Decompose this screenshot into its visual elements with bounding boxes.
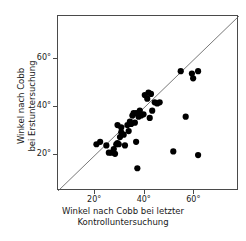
data-point bbox=[126, 128, 132, 134]
y-axis-tick bbox=[53, 106, 57, 107]
identity-line bbox=[58, 16, 239, 191]
x-axis-title: Winkel nach Cobb bei letzter Kontrollunt… bbox=[0, 206, 246, 228]
x-axis-title-line1: Winkel nach Cobb bei letzter bbox=[62, 206, 184, 216]
data-point bbox=[195, 152, 201, 158]
data-point bbox=[134, 165, 140, 171]
data-point bbox=[183, 114, 189, 120]
y-axis-title: Winkel nach Cobb bei Erstuntersuchung bbox=[16, 31, 38, 181]
data-point bbox=[149, 108, 155, 114]
x-axis-tick-label: 40° bbox=[137, 196, 151, 204]
data-point-layer bbox=[93, 68, 201, 171]
y-axis-tick bbox=[53, 154, 57, 155]
x-axis-tick bbox=[193, 190, 194, 194]
plot-area bbox=[57, 15, 238, 190]
x-axis-title-line2: Kontrolluntersuchung bbox=[0, 217, 246, 228]
data-point bbox=[97, 139, 103, 145]
x-axis-tick-label: 20° bbox=[87, 196, 101, 204]
x-axis-tick bbox=[144, 190, 145, 194]
data-point bbox=[121, 132, 127, 138]
data-point bbox=[147, 115, 153, 121]
plot-canvas bbox=[58, 16, 239, 191]
data-point bbox=[140, 111, 146, 117]
data-point bbox=[178, 68, 184, 74]
data-point bbox=[133, 139, 139, 145]
data-point bbox=[116, 141, 122, 147]
data-point bbox=[112, 151, 118, 157]
y-axis-tick bbox=[53, 58, 57, 59]
y-axis-title-line2: bei Erstuntersuchung bbox=[27, 31, 38, 181]
x-axis-tick bbox=[94, 190, 95, 194]
data-point bbox=[190, 75, 196, 81]
y-axis-title-line1: Winkel nach Cobb bbox=[16, 68, 26, 144]
data-point bbox=[157, 99, 163, 105]
data-point bbox=[170, 148, 176, 154]
data-point bbox=[148, 91, 154, 97]
data-point bbox=[103, 142, 109, 148]
data-point bbox=[195, 68, 201, 74]
data-point bbox=[122, 142, 128, 148]
scatter-chart-figure: 20°40°60°20°40°60° Winkel nach Cobb bei … bbox=[0, 0, 246, 241]
data-point bbox=[132, 120, 138, 126]
x-axis-tick-label: 60° bbox=[186, 196, 200, 204]
